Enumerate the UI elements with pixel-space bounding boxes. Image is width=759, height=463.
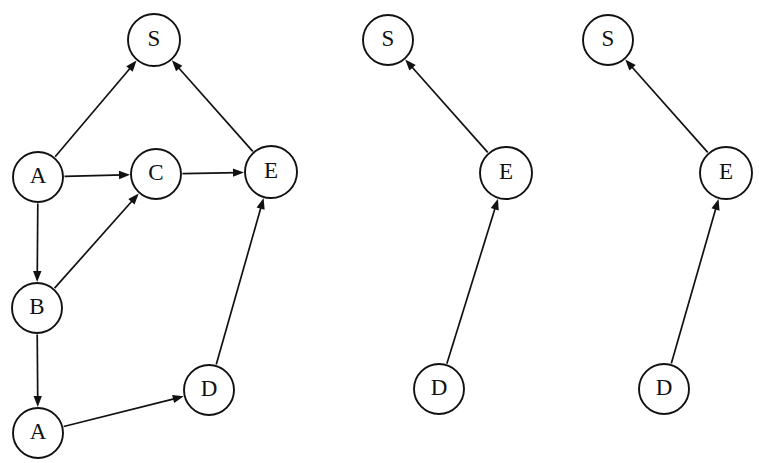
node-path-graph-2-E[interactable]: E <box>700 147 752 199</box>
arrowhead-C-to-E <box>233 168 244 176</box>
node-label: D <box>431 375 448 400</box>
path-graph-1-edges <box>405 59 498 363</box>
edge-C-to-E <box>182 173 237 174</box>
node-full-graph-C[interactable]: C <box>131 149 181 199</box>
node-path-graph-2-S[interactable]: S <box>583 15 633 65</box>
edges-layer <box>33 59 719 426</box>
nodes-layer: SACEBDASEDSED <box>12 14 752 458</box>
node-path-graph-2-D[interactable]: D <box>639 364 689 414</box>
edge-E-to-S <box>176 65 253 152</box>
edge-D-to-E <box>447 205 496 364</box>
node-label: S <box>382 26 395 51</box>
path-graph-2-edges <box>625 59 719 363</box>
node-label: D <box>656 375 673 400</box>
node-full-graph-D[interactable]: D <box>184 365 234 415</box>
node-label: S <box>148 26 161 51</box>
edge-B-to-C <box>55 198 135 288</box>
node-label: E <box>719 159 733 184</box>
node-label: S <box>602 26 615 51</box>
node-full-graph-A1[interactable]: A <box>13 152 63 202</box>
edge-D-to-E <box>671 205 717 364</box>
graph-canvas: SACEBDASEDSED <box>0 0 759 463</box>
node-label: A <box>30 419 47 444</box>
path-graph-2-nodes: SED <box>583 15 752 414</box>
edge-A2-to-D <box>64 398 178 427</box>
node-label: D <box>201 376 218 401</box>
node-path-graph-1-E[interactable]: E <box>480 147 532 199</box>
arrowhead-B-to-A2 <box>34 396 42 407</box>
node-label: B <box>29 294 44 319</box>
node-full-graph-S[interactable]: S <box>128 14 180 66</box>
edge-E-to-S <box>409 64 487 152</box>
edge-D-to-E <box>216 204 262 365</box>
edge-B-to-A2 <box>37 334 38 400</box>
arrowhead-D-to-E <box>491 199 499 211</box>
edge-E-to-S <box>629 64 707 152</box>
node-label: A <box>30 163 47 188</box>
edge-A1-to-B <box>37 203 38 275</box>
node-path-graph-1-S[interactable]: S <box>363 15 413 65</box>
arrowhead-A1-to-B <box>33 271 41 282</box>
node-label: C <box>148 160 163 185</box>
arrowhead-A1-to-C <box>119 171 130 179</box>
node-label: E <box>499 159 513 184</box>
node-full-graph-E[interactable]: E <box>245 146 297 198</box>
arrowhead-D-to-E <box>257 198 265 210</box>
edge-A1-to-S <box>55 65 133 157</box>
full-graph-nodes: SACEBDA <box>12 14 297 458</box>
arrowhead-D-to-E <box>711 199 719 211</box>
node-label: E <box>264 158 278 183</box>
arrowhead-A2-to-D <box>172 395 184 403</box>
full-graph-edges <box>33 60 265 426</box>
edge-A1-to-C <box>64 175 123 177</box>
node-full-graph-B[interactable]: B <box>12 283 62 333</box>
graph-figure: SACEBDASEDSED <box>0 0 759 463</box>
path-graph-1-nodes: SED <box>363 15 532 414</box>
node-full-graph-A2[interactable]: A <box>13 408 63 458</box>
node-path-graph-1-D[interactable]: D <box>414 364 464 414</box>
